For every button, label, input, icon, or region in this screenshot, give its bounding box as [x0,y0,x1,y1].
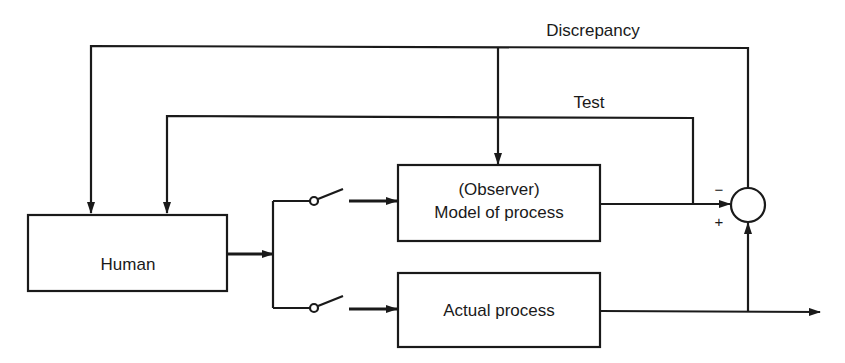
lower-switch-blade [318,296,343,306]
human-label: Human [101,255,156,274]
lower-switch-pivot [310,304,318,312]
discrepancy-line [91,46,748,213]
minus-sign: − [715,181,724,198]
summing-junction [731,188,765,222]
model-label-line1: (Observer) [458,180,539,199]
human-block [28,215,227,291]
discrepancy-label: Discrepancy [546,21,640,40]
observer-block-diagram: Discrepancy Test Human (Observer) Model … [0,0,845,363]
actual-process-label: Actual process [443,301,555,320]
model-label-line2: Model of process [434,203,563,222]
upper-switch-blade [318,189,343,199]
test-label: Test [573,93,604,112]
upper-switch-pivot [310,197,318,205]
plus-sign: + [715,213,724,230]
actual-output-line [600,311,820,312]
